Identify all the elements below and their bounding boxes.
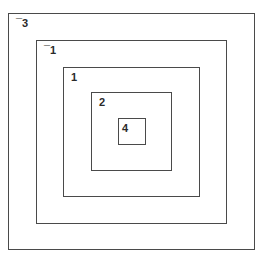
- square-label-2: 2: [99, 96, 105, 108]
- square-label-1: 1: [71, 71, 77, 83]
- square-label-4: 4: [122, 122, 128, 134]
- square-label-neg3: ¯3: [16, 17, 28, 29]
- nested-squares-diagram: ¯3 ¯1 1 2 4: [0, 0, 263, 257]
- square-4: 4: [118, 118, 146, 145]
- square-label-neg1: ¯1: [44, 44, 56, 56]
